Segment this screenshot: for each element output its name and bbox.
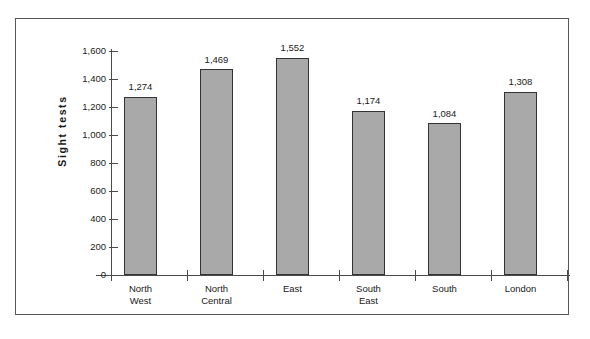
bar-value-label: 1,308 [490,76,551,87]
y-tick-mark [109,219,118,220]
y-tick-mark [109,135,118,136]
y-tick-label: 0 [101,269,106,281]
x-category-label-south: South [414,283,475,295]
x-category-label-south-east: South East [338,283,399,306]
bar-north-central[interactable] [200,69,233,275]
y-tick-mark [109,79,118,80]
y-axis-tick: 0 [56,269,118,281]
bar-london[interactable] [504,92,537,275]
x-category-label-east: East [262,283,323,295]
bar-value-label: 1,274 [110,81,171,92]
chart-frame: Sight tests 1,600 1,400 1,200 1,000 800 … [15,18,569,315]
y-tick-label: 800 [90,157,106,169]
x-tick-mark [567,270,568,281]
y-axis-tick: 800 [56,157,118,169]
x-tick-mark [491,270,492,281]
bar-east[interactable] [276,58,309,275]
y-tick-mark [109,51,118,52]
y-tick-label: 1,600 [82,45,106,57]
y-tick-mark [109,107,118,108]
y-axis-tick: 1,000 [56,129,118,141]
y-axis-tick: 400 [56,213,118,225]
y-tick-label: 1,400 [82,73,106,85]
y-axis-tick: 600 [56,185,118,197]
bar-north-west[interactable] [124,97,157,275]
x-category-label-north-central: North Central [186,283,247,306]
bar-value-label: 1,469 [186,54,247,65]
bar-value-label: 1,084 [414,108,475,119]
y-tick-label: 1,000 [82,129,106,141]
y-axis-tick: 1,200 [56,101,118,113]
x-tick-mark [415,270,416,281]
y-tick-label: 1,200 [82,101,106,113]
bar-chart-plot: Sight tests 1,600 1,400 1,200 1,000 800 … [16,19,570,316]
y-axis-tick: 1,600 [56,45,118,57]
y-tick-label: 200 [90,241,106,253]
x-category-label-london: London [490,283,551,295]
x-tick-mark [187,270,188,281]
y-tick-mark [109,191,118,192]
x-axis-line [96,275,570,276]
bar-value-label: 1,174 [338,95,399,106]
x-tick-mark [111,270,112,281]
bar-south[interactable] [428,123,461,275]
x-category-label-north-west: North West [110,283,171,306]
y-tick-label: 600 [90,185,106,197]
bar-south-east[interactable] [352,111,385,275]
y-tick-mark [109,163,118,164]
x-tick-mark [339,270,340,281]
x-tick-mark [263,270,264,281]
y-axis-tick: 1,400 [56,73,118,85]
y-tick-mark [109,247,118,248]
bar-value-label: 1,552 [262,42,323,53]
y-axis-tick: 200 [56,241,118,253]
y-tick-label: 400 [90,213,106,225]
